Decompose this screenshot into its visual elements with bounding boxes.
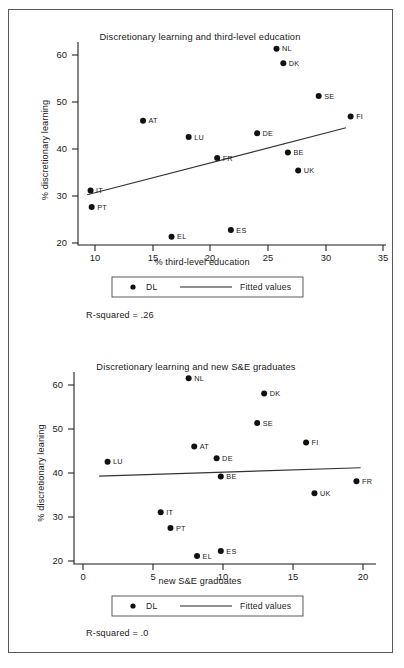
data-point-label-de: DE	[263, 129, 274, 138]
chart-bottom-rsquared: R-squared = .0	[86, 628, 149, 638]
chart-bottom-axes: 60 50 40 30 20 0 5 10 15	[53, 372, 376, 582]
chart-bottom-ytick-30: 30	[53, 511, 63, 522]
data-point-nl	[273, 46, 279, 52]
chart-top-points: NLDKSEFIATLUDEBEFRUKITPTESEL	[88, 44, 364, 241]
chart-top-xtick-10: 10	[90, 252, 100, 263]
chart-bottom-xtick-0: 0	[80, 571, 85, 582]
data-point-label-fi: FI	[356, 112, 363, 121]
data-point-fr	[353, 478, 359, 484]
data-point-fi	[348, 114, 354, 120]
chart-top-fit-line	[87, 128, 346, 195]
chart-bottom-legend: DL Fitted values	[112, 596, 303, 616]
data-point-uk	[295, 168, 301, 174]
data-point-fi	[303, 439, 309, 445]
data-point-label-fi: FI	[312, 438, 319, 447]
data-point-de	[254, 130, 260, 136]
data-point-label-it: IT	[166, 508, 173, 517]
data-point-label-pt: PT	[97, 203, 107, 212]
data-point-uk	[311, 490, 317, 496]
data-point-pt	[167, 525, 173, 531]
data-point-label-be: BE	[226, 472, 236, 481]
chart-bottom-xtick-labels: 0 5 10 15 20	[80, 571, 368, 582]
data-point-label-lu: LU	[194, 133, 204, 142]
page-root: Discretionary learning and third-level e…	[0, 0, 404, 668]
chart-top-xtick-15: 15	[148, 252, 158, 263]
chart-top-ytick-marks	[72, 55, 78, 243]
data-point-label-nl: NL	[282, 44, 292, 53]
data-point-label-el: EL	[177, 232, 186, 241]
data-point-at	[140, 118, 146, 124]
chart-bottom-ytick-50: 50	[53, 423, 63, 434]
chart-top-xlabel: % third-level education	[154, 257, 249, 267]
chart-top-legend: DL Fitted values	[112, 277, 303, 297]
data-point-se	[316, 93, 322, 99]
chart-bottom-legend-label-dl: DL	[146, 601, 157, 611]
data-point-label-it: IT	[96, 186, 103, 195]
data-point-label-es: ES	[236, 226, 246, 235]
chart-bottom-ytick-marks	[68, 385, 74, 561]
chart-bottom-xtick-10: 10	[218, 571, 228, 582]
data-point-pt	[89, 204, 95, 210]
chart-bottom-legend-label-fitted: Fitted values	[240, 601, 291, 611]
chart-bottom-ytick-20: 20	[53, 555, 63, 566]
chart-top-xtick-30: 30	[321, 252, 331, 263]
data-point-de	[214, 455, 220, 461]
data-point-label-at: AT	[149, 116, 159, 125]
chart-top-title: Discretionary learning and third-level e…	[100, 32, 301, 42]
chart-top-ytick-labels: 60 50 40 30 20	[57, 49, 67, 248]
data-point-es	[228, 227, 234, 233]
chart-bottom-xlabel: new S&E graduates	[159, 576, 242, 586]
chart-top-legend-dot-icon	[130, 284, 135, 289]
chart-top-ytick-40: 40	[57, 143, 67, 154]
data-point-nl	[186, 375, 192, 381]
data-point-label-de: DE	[222, 454, 233, 463]
data-point-be	[285, 150, 291, 156]
data-point-label-es: ES	[226, 547, 236, 556]
chart-top-ytick-50: 50	[57, 96, 67, 107]
chart-top-spines	[78, 42, 386, 245]
data-point-label-se: SE	[324, 92, 334, 101]
data-point-it	[158, 509, 164, 515]
data-point-el	[194, 553, 200, 559]
data-point-label-se: SE	[263, 419, 273, 428]
chart-top-legend-label-dl: DL	[146, 282, 157, 292]
chart-top-ytick-60: 60	[57, 49, 67, 60]
data-point-dk	[280, 60, 286, 66]
chart-bottom-xtick-15: 15	[288, 571, 298, 582]
chart-bottom-spines	[74, 372, 376, 564]
chart-top-svg: Discretionary learning and third-level e…	[0, 0, 404, 340]
chart-bottom-xtick-20: 20	[358, 571, 368, 582]
chart-top-xtick-35: 35	[378, 252, 388, 263]
data-point-label-dk: DK	[289, 59, 300, 68]
data-point-label-fr: FR	[223, 154, 233, 163]
data-point-label-uk: UK	[304, 166, 315, 175]
data-point-label-el: EL	[203, 552, 212, 561]
data-point-label-pt: PT	[176, 524, 186, 533]
chart-top-ytick-30: 30	[57, 190, 67, 201]
data-point-it	[88, 188, 94, 194]
data-point-fr	[214, 155, 220, 161]
data-point-el	[169, 234, 175, 240]
chart-bottom-xtick-5: 5	[150, 571, 155, 582]
chart-bottom-legend-dot-icon	[130, 603, 135, 608]
chart-bottom-ylabel: % discretionary leaning	[36, 424, 46, 521]
chart-bottom-ytick-labels: 60 50 40 30 20	[53, 379, 63, 566]
data-point-be	[218, 474, 224, 480]
data-point-label-nl: NL	[194, 374, 204, 383]
data-point-label-uk: UK	[320, 489, 331, 498]
chart-top-ylabel: % discretionary learning	[40, 100, 50, 200]
chart-bottom-points: NLDKSEFIATDELUBEFRUKITPTESEL	[105, 374, 373, 561]
data-point-label-lu: LU	[113, 457, 123, 466]
data-point-dk	[261, 390, 267, 396]
data-point-se	[254, 420, 260, 426]
data-point-label-at: AT	[200, 442, 210, 451]
data-point-label-fr: FR	[362, 477, 372, 486]
data-point-label-dk: DK	[270, 389, 281, 398]
data-point-at	[191, 443, 197, 449]
chart-top-xtick-20: 20	[205, 252, 215, 263]
data-point-label-be: BE	[293, 148, 303, 157]
chart-top-legend-label-fitted: Fitted values	[240, 282, 291, 292]
chart-top-rsquared: R-squared = .26	[86, 310, 154, 320]
data-point-es	[218, 548, 224, 554]
chart-top-axes: 60 50 40 30 20 10 15 20	[57, 42, 389, 263]
